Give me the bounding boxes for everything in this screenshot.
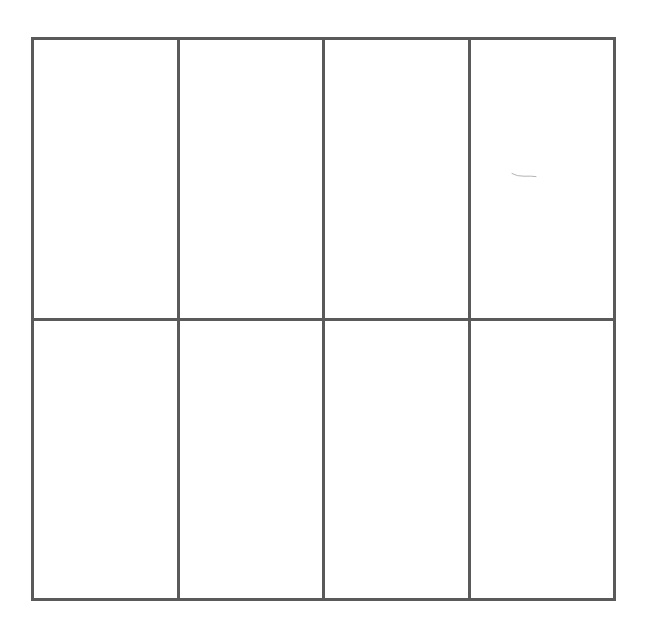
grid-cell-r1-c4 xyxy=(471,40,613,318)
grid-diagram xyxy=(31,37,616,601)
pencil-mark-icon xyxy=(511,172,537,178)
grid-cell-r2-c2 xyxy=(180,321,322,598)
grid-cell-r2-c3 xyxy=(325,321,468,598)
grid-cell-r2-c1 xyxy=(34,321,177,598)
grid-cell-r1-c1 xyxy=(34,40,177,318)
grid-cell-r1-c3 xyxy=(325,40,468,318)
grid-cell-r1-c2 xyxy=(180,40,322,318)
grid-cell-r2-c4 xyxy=(471,321,613,598)
